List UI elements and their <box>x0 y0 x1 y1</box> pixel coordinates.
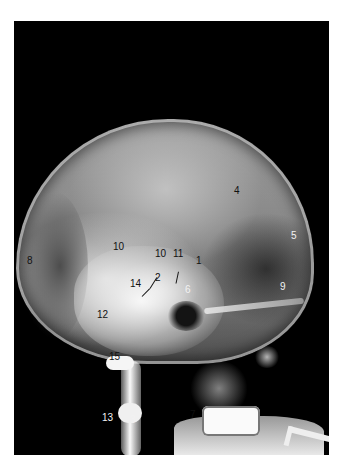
nasal-region <box>254 346 280 368</box>
label-4: 4 <box>234 186 240 196</box>
label-12: 12 <box>97 310 108 320</box>
label-10: 10 <box>113 242 124 252</box>
label-13: 13 <box>102 413 113 423</box>
label-14: 14 <box>130 279 141 289</box>
label-9: 9 <box>280 282 286 292</box>
label-3: 3 <box>130 415 136 425</box>
label-5: 5 <box>291 231 297 241</box>
dental-work <box>202 406 260 436</box>
label-6: 6 <box>185 285 191 295</box>
label-7: 7 <box>190 410 196 420</box>
label-1: 1 <box>196 256 202 266</box>
sella-turcica <box>167 301 205 331</box>
label-15: 15 <box>109 352 120 362</box>
label-11: 11 <box>173 249 183 259</box>
label-10: 10 <box>155 249 166 259</box>
radiograph-film <box>14 21 329 455</box>
label-8: 8 <box>27 256 33 266</box>
